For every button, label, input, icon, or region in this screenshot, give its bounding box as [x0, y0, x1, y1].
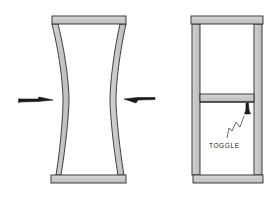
toggle-label: TOGGLE	[209, 142, 240, 149]
load-arrow-left-icon	[124, 98, 155, 104]
braced-top-plate	[191, 16, 263, 24]
load-arrow-right-icon	[19, 97, 53, 103]
bowed-right-stud	[110, 24, 126, 175]
cross-brace	[200, 94, 254, 102]
braced-frame	[191, 16, 263, 183]
bowed-left-stud	[52, 24, 69, 175]
bowed-bottom-plate	[51, 175, 126, 183]
bowed-top-plate	[52, 16, 126, 24]
bowed-frame	[51, 16, 126, 183]
diagram-canvas	[0, 0, 277, 224]
toggle-icon	[245, 103, 251, 114]
braced-bottom-plate	[193, 175, 263, 183]
braced-right-stud	[254, 24, 262, 175]
braced-left-stud	[192, 24, 200, 175]
toggle-leader-line	[227, 116, 244, 138]
